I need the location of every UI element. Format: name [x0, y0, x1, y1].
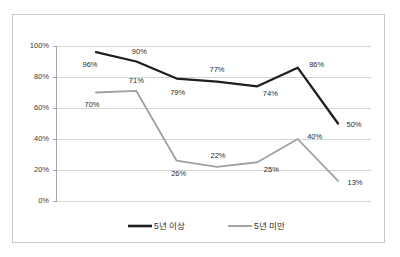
data-label-over-5-years: 74% [263, 89, 278, 98]
y-axis-tick-label: 20% [34, 165, 49, 174]
legend-item-under-5-years[interactable]: 5년 미만 [228, 221, 285, 231]
y-axis-tick-label: 60% [34, 103, 49, 112]
data-label-under-5-years: 13% [347, 178, 362, 187]
data-label-over-5-years: 50% [346, 120, 361, 129]
y-axis-tick-label: 0% [38, 196, 49, 205]
y-axis-tick-label: 40% [34, 134, 49, 143]
data-label-under-5-years: 40% [307, 132, 322, 141]
series-line-under-5-years [96, 91, 338, 181]
series-line-over-5-years [96, 52, 338, 123]
data-label-over-5-years: 96% [82, 60, 97, 69]
data-label-over-5-years: 77% [209, 65, 224, 74]
y-axis-tick-label: 100% [30, 41, 50, 50]
legend-label-under-5-years: 5년 미만 [254, 221, 285, 231]
data-label-under-5-years: 71% [129, 76, 144, 85]
data-label-under-5-years: 26% [171, 169, 186, 178]
line-chart-plot: 0%20%40%60%80%100% 70%71%26%22%25%40%13%… [0, 0, 400, 257]
data-label-over-5-years: 90% [132, 47, 147, 56]
legend: 5년 이상 5년 미만 [128, 221, 285, 231]
legend-item-over-5-years[interactable]: 5년 이상 [128, 221, 185, 231]
chart-container: 0%20%40%60%80%100% 70%71%26%22%25%40%13%… [0, 0, 400, 257]
data-label-under-5-years: 25% [264, 165, 279, 174]
y-axis-tick-label: 80% [34, 72, 49, 81]
legend-label-over-5-years: 5년 이상 [154, 221, 185, 231]
data-label-under-5-years: 70% [84, 100, 99, 109]
data-label-under-5-years: 22% [210, 151, 225, 160]
data-label-over-5-years: 86% [309, 60, 324, 69]
data-label-over-5-years: 79% [170, 88, 185, 97]
y-axis-tick-labels: 0%20%40%60%80%100% [30, 41, 50, 205]
